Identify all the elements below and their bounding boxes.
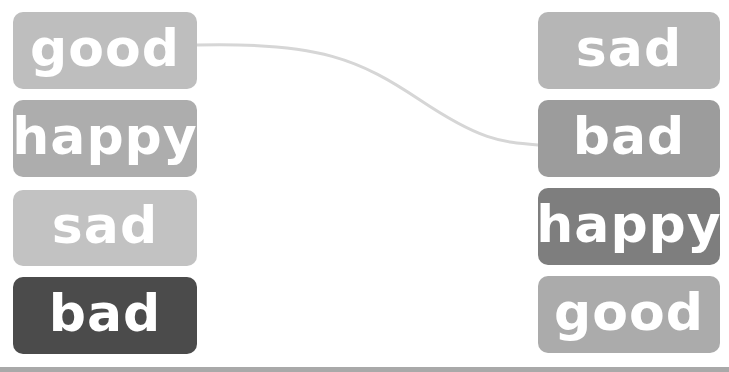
left-card-bad[interactable]: bad xyxy=(13,277,197,354)
right-card-happy[interactable]: happy xyxy=(538,188,720,265)
bottom-divider-bar xyxy=(0,367,729,372)
left-card-happy[interactable]: happy xyxy=(13,100,197,177)
right-card-label: sad xyxy=(576,22,682,74)
left-card-sad[interactable]: sad xyxy=(13,190,197,266)
right-card-label: good xyxy=(554,286,704,338)
left-card-label: bad xyxy=(49,287,162,339)
left-card-label: sad xyxy=(52,199,158,251)
left-card-good[interactable]: good xyxy=(13,12,197,89)
right-card-sad[interactable]: sad xyxy=(538,12,720,89)
right-card-bad[interactable]: bad xyxy=(538,100,720,177)
right-card-label: bad xyxy=(573,110,686,162)
right-card-label: happy xyxy=(536,198,721,250)
left-card-label: happy xyxy=(12,110,197,162)
left-card-label: good xyxy=(30,22,180,74)
right-card-good[interactable]: good xyxy=(538,276,720,353)
